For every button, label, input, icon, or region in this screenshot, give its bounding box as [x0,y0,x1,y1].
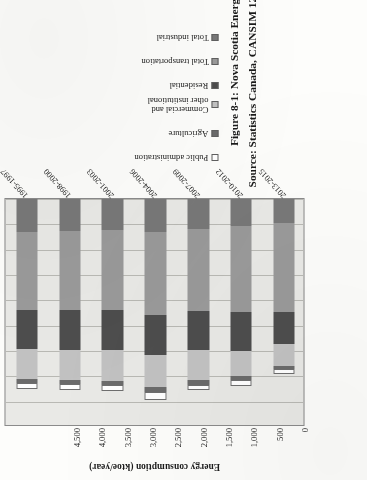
axis-tick-label: 2,000 [198,428,208,460]
bar-segment [273,344,294,366]
bar-segment [16,199,37,232]
bar-segment [101,381,122,385]
legend-item[interactable]: Agriculture [168,129,218,138]
bar-row [59,199,80,425]
legend-label: Total industrial [156,33,208,42]
chart-area: Energy consumption (ktoe/year) 05001,000… [4,174,364,474]
bar-segment [187,350,208,380]
legend-item[interactable]: Total transportation [141,57,218,66]
value-axis-ticks: 05001,0001,5002,0002,5003,0003,5004,0004… [4,426,304,460]
legend-swatch [211,101,218,108]
legend-label: Residential [169,81,208,90]
bar-segment [101,310,122,350]
bar-segment [187,380,208,384]
bar-segment [230,380,251,386]
axis-tick-label: 4,000 [96,428,106,460]
bar-segment [273,366,294,370]
figure-8-1: Energy consumption (ktoe/year) 05001,000… [0,0,367,480]
bar-segment [16,379,37,383]
bar-segment [230,376,251,380]
bar-segment [187,311,208,350]
bar-segment [230,312,251,351]
bar-segment [273,223,294,313]
legend-label: Total transportation [141,57,208,66]
category-label: 2013-2015 [256,167,287,200]
axis-tick-label: 500 [274,428,284,460]
axis-tick-label: 3,500 [122,428,132,460]
category-label: 2004-2006 [128,167,159,200]
bar-segment [59,199,80,231]
legend-label: Public administration [134,153,208,162]
bar-rows [5,199,303,425]
bar-segment [101,385,122,391]
axis-tick-label: 1,000 [248,428,258,460]
bar-row [101,199,122,425]
legend-item[interactable]: Public administration [134,153,218,162]
bar-segment [144,232,165,315]
bar-segment [101,350,122,381]
bar-segment [144,355,165,387]
bar-segment [59,310,80,350]
caption-line-2: Source: Statistics Canada, CANSIM 128-00… [244,0,258,187]
category-label: 2010-2012 [213,167,244,200]
bar-segment [16,349,37,379]
category-label: 2001-2003 [85,167,116,200]
bar-segment [59,350,80,380]
axis-tick-label: 3,000 [147,428,157,460]
bar-segment [230,199,251,226]
bar-segment [101,199,122,230]
bar-segment [273,312,294,343]
bar-segment [144,387,165,392]
caption-line-1: Figure 8-1: Nova Scotia Energy Consumpti… [226,0,240,146]
legend-swatch [211,154,218,161]
value-axis-title: Energy consumption (ktoe/year) [4,460,304,474]
legend-label-line-2: other institutional [147,96,208,105]
value-axis-title-text: Energy consumption (ktoe/year) [88,462,219,472]
rotated-figure: Energy consumption (ktoe/year) 05001,000… [0,0,367,480]
category-label: 2007-2009 [170,167,201,200]
legend-label-line-1: Commercial and [151,105,208,115]
bar-segment [59,231,80,310]
legend-item[interactable]: Total industrial [156,33,218,42]
bar-segment [59,384,80,390]
bar-segment [187,199,208,229]
bar-segment [16,310,37,349]
bar-segment [16,383,37,389]
axis-tick-label: 2,500 [172,428,182,460]
legend-swatch [211,82,218,89]
figure-caption: Figure 8-1: Nova Scotia Energy Consumpti… [226,6,358,146]
axis-tick-label: 0 [299,428,309,460]
scanned-page: Energy consumption (ktoe/year) 05001,000… [0,0,367,480]
plot-area [4,198,304,426]
bar-row [187,199,208,425]
legend-swatch [211,34,218,41]
bar-row [230,199,251,425]
legend-label: Agriculture [168,129,208,138]
bar-row [16,199,37,425]
legend-label: Commercial andother institutional [147,96,208,114]
bar-segment [59,380,80,384]
bar-segment [144,392,165,400]
chart-legend: Public administrationAgricultureCommerci… [8,12,218,162]
legend-swatch [211,130,218,137]
bar-segment [273,199,294,223]
legend-item[interactable]: Commercial andother institutional [147,96,218,114]
bar-segment [187,229,208,311]
legend-item[interactable]: Residential [169,81,218,90]
bar-row [144,199,165,425]
bar-segment [144,199,165,232]
axis-tick-label: 4,500 [71,428,81,460]
bar-row [273,199,294,425]
legend-swatch [211,58,218,65]
axis-tick-label: 1,500 [223,428,233,460]
bar-segment [101,230,122,310]
bar-segment [273,369,294,374]
category-label: 1998-2000 [42,167,73,200]
bar-segment [16,232,37,310]
bar-segment [144,315,165,355]
bar-segment [230,351,251,376]
bar-segment [230,226,251,312]
category-label: 1995-1997 [0,167,30,200]
bar-segment [187,385,208,391]
